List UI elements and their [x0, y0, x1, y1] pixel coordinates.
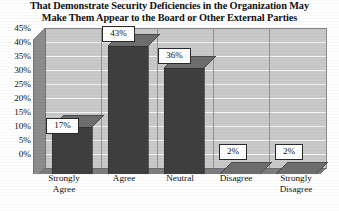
x-tick-strongly-disagree-line-2: Disagree [262, 184, 330, 195]
x-tick-strongly-disagree-line-1: Strongly [262, 173, 330, 184]
y-tick-15: 15% [1, 108, 31, 117]
x-tick-agree-line-1: Agree [92, 173, 156, 184]
x-tick-agree: Agree [92, 173, 156, 184]
data-label-agree: 43% [102, 26, 135, 42]
y-tick-45: 45% [1, 24, 31, 33]
bar-chart: That Demonstrate Security Deficiencies i… [0, 0, 339, 211]
y-tick-5: 5% [1, 136, 31, 145]
x-tick-strongly-disagree: Strongly Disagree [262, 173, 330, 194]
x-tick-disagree-line-1: Disagree [204, 173, 268, 184]
y-tick-40: 40% [1, 38, 31, 47]
chart-title: That Demonstrate Security Deficiencies i… [8, 0, 331, 23]
x-axis: Strongly Agree Agree Neutral Disagree St… [0, 173, 339, 211]
x-tick-strongly-agree: Strongly Agree [32, 173, 96, 194]
x-tick-neutral-line-1: Neutral [148, 173, 212, 184]
y-axis: 45% 40% 35% 30% 25% 20% 15% 10% 5% 0% [0, 22, 31, 174]
y-tick-35: 35% [1, 52, 31, 61]
y-tick-0: 0% [1, 150, 31, 159]
x-tick-neutral: Neutral [148, 173, 212, 184]
x-tick-disagree: Disagree [204, 173, 268, 184]
x-tick-strongly-agree-line-1: Strongly [32, 173, 96, 184]
y-tick-30: 30% [1, 66, 31, 75]
chart-title-line-1: That Demonstrate Security Deficiencies i… [8, 0, 331, 12]
y-tick-25: 25% [1, 80, 31, 89]
data-label-disagree: 2% [219, 144, 247, 160]
chart-side-wall [33, 28, 45, 174]
y-tick-10: 10% [1, 122, 31, 131]
y-tick-20: 20% [1, 94, 31, 103]
x-tick-strongly-agree-line-2: Agree [32, 184, 96, 195]
data-label-strongly-agree: 17% [46, 118, 79, 134]
data-label-strongly-disagree: 2% [275, 144, 303, 160]
data-label-neutral: 36% [158, 48, 191, 64]
